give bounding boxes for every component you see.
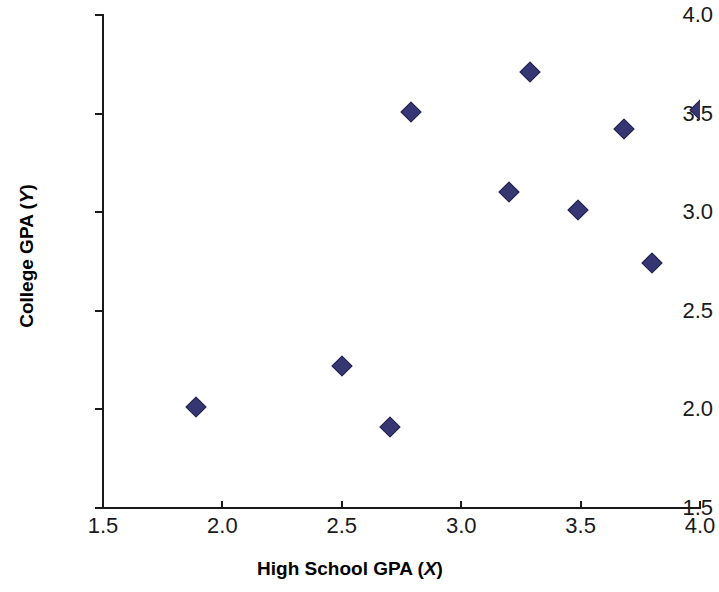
y-axis-title-tail: ) <box>16 184 37 190</box>
data-point-marker <box>520 62 541 83</box>
y-axis-title-text: College GPA ( <box>16 203 37 328</box>
x-axis-title-text: High School GPA ( <box>257 558 424 579</box>
plot-area <box>103 15 700 508</box>
y-tick-mark <box>95 211 103 213</box>
data-point-marker <box>642 253 663 274</box>
x-axis-variable: X <box>424 558 437 579</box>
x-tick-label: 4.0 <box>655 515 719 537</box>
data-point-marker <box>498 182 519 203</box>
data-point-marker <box>331 355 352 376</box>
data-point-marker <box>568 200 589 221</box>
y-tick-mark <box>95 113 103 115</box>
y-tick-mark <box>95 14 103 16</box>
x-tick-label: 2.0 <box>177 515 267 537</box>
data-point-marker <box>186 397 207 418</box>
x-tick-label: 1.5 <box>58 515 148 537</box>
data-point-marker <box>379 417 400 438</box>
y-tick-mark <box>95 408 103 410</box>
x-axis-title: High School GPA (X) <box>0 558 700 580</box>
data-point-marker <box>613 119 634 140</box>
data-point-marker <box>689 99 700 120</box>
x-tick-label: 2.5 <box>297 515 387 537</box>
x-axis-title-tail: ) <box>437 558 443 579</box>
data-point-marker <box>400 101 421 122</box>
y-axis-title: College GPA (Y) <box>16 141 38 371</box>
x-tick-label: 3.0 <box>416 515 506 537</box>
y-tick-mark <box>95 310 103 312</box>
x-tick-label: 3.5 <box>536 515 626 537</box>
y-axis-variable: Y <box>16 191 37 204</box>
